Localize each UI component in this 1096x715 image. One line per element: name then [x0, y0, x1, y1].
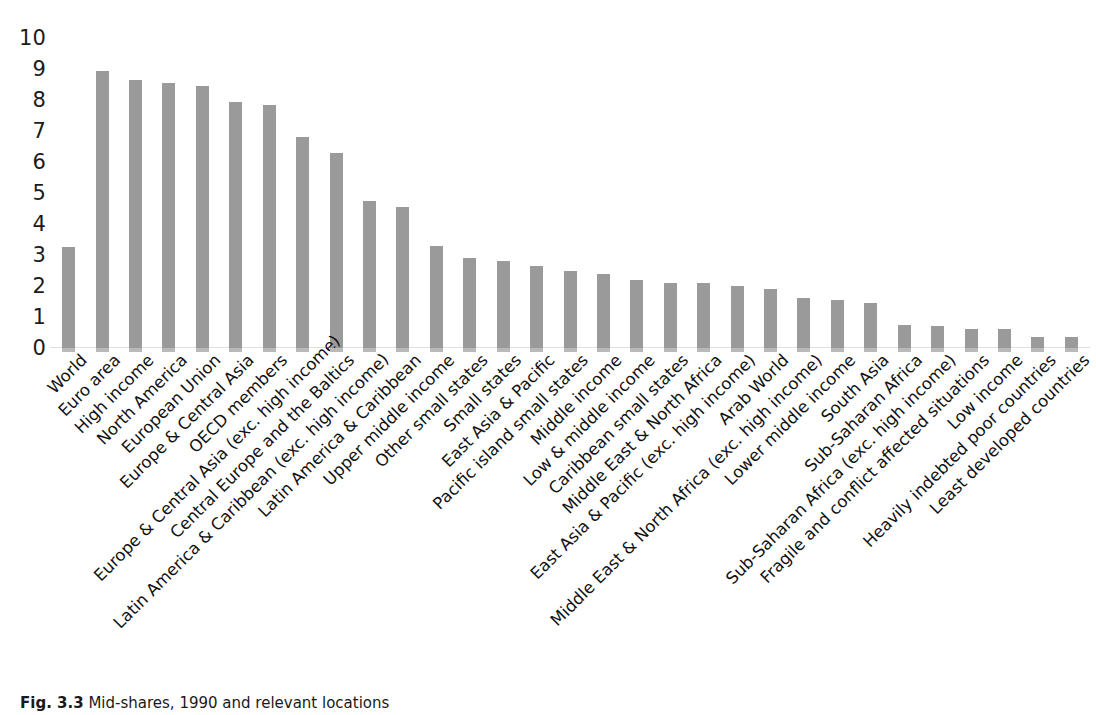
x-axis-tick-mark — [430, 348, 443, 352]
x-axis-tick-mark — [229, 348, 242, 352]
bar — [497, 261, 510, 348]
bar — [1065, 337, 1078, 348]
bar — [363, 201, 376, 348]
plot-area — [52, 38, 1088, 348]
bar — [396, 207, 409, 348]
bar — [764, 289, 777, 348]
y-axis-tick-label: 6 — [32, 152, 46, 173]
bar — [330, 153, 343, 348]
x-axis-tick-mark — [62, 348, 75, 352]
x-axis-category-labels: WorldEuro areaHigh incomeNorth AmericaEu… — [0, 352, 1096, 652]
x-axis-tick-mark — [296, 348, 309, 352]
x-axis-tick-mark — [263, 348, 276, 352]
x-axis-tick-mark — [396, 348, 409, 352]
x-axis-tick-mark — [564, 348, 577, 352]
x-axis-tick-mark — [530, 348, 543, 352]
y-axis: 109876543210 — [0, 38, 46, 348]
bar — [564, 271, 577, 349]
figure-caption: Fig. 3.3 Mid-shares, 1990 and relevant l… — [20, 694, 1080, 712]
y-axis-tick-label: 10 — [19, 28, 46, 49]
x-axis-tick-mark — [196, 348, 209, 352]
y-axis-tick-label: 5 — [32, 183, 46, 204]
bar — [430, 246, 443, 348]
caption-text: Mid-shares, 1990 and relevant locations — [88, 694, 389, 712]
bar — [864, 303, 877, 348]
y-axis-tick-label: 4 — [32, 214, 46, 235]
x-axis-tick-mark — [797, 348, 810, 352]
y-axis-tick-label: 9 — [32, 59, 46, 80]
bar — [530, 266, 543, 348]
bar — [931, 326, 944, 348]
bar — [129, 80, 142, 348]
y-axis-tick-label: 1 — [32, 307, 46, 328]
y-axis-tick-label: 8 — [32, 90, 46, 111]
x-axis-tick-mark — [731, 348, 744, 352]
x-axis-tick-mark — [898, 348, 911, 352]
x-axis-tick-mark — [497, 348, 510, 352]
x-axis-tick-mark — [931, 348, 944, 352]
y-axis-tick-label: 2 — [32, 276, 46, 297]
bar — [1031, 337, 1044, 348]
bar — [630, 280, 643, 348]
x-axis-tick-mark — [998, 348, 1011, 352]
bar — [697, 283, 710, 348]
bar — [296, 137, 309, 348]
x-axis-tick-mark — [463, 348, 476, 352]
x-axis-tick-mark — [96, 348, 109, 352]
x-axis-tick-mark — [664, 348, 677, 352]
x-axis-tick-mark — [630, 348, 643, 352]
bar — [731, 286, 744, 348]
x-axis-tick-mark — [1031, 348, 1044, 352]
x-axis-tick-mark — [864, 348, 877, 352]
x-axis-tick-mark — [831, 348, 844, 352]
x-axis-tick-mark — [363, 348, 376, 352]
bar — [797, 298, 810, 348]
bar — [263, 105, 276, 348]
x-axis-tick-mark — [697, 348, 710, 352]
bar — [62, 247, 75, 348]
y-axis-tick-label: 7 — [32, 121, 46, 142]
x-axis-tick-mark — [129, 348, 142, 352]
x-axis-tick-mark — [1065, 348, 1078, 352]
x-axis-tick-mark — [597, 348, 610, 352]
x-axis-tick-mark — [965, 348, 978, 352]
bar — [898, 325, 911, 348]
x-axis-tick-mark — [764, 348, 777, 352]
bar — [463, 258, 476, 348]
figure-number: Fig. 3.3 — [20, 694, 84, 712]
y-axis-tick-label: 3 — [32, 245, 46, 266]
x-axis-tick-mark — [162, 348, 175, 352]
bar — [196, 86, 209, 348]
bar — [965, 329, 978, 348]
bar — [664, 283, 677, 348]
x-axis-tick-mark — [330, 348, 343, 352]
bar — [229, 102, 242, 348]
bar — [998, 329, 1011, 348]
bar — [831, 300, 844, 348]
bar — [96, 71, 109, 348]
bar — [162, 83, 175, 348]
bar — [597, 274, 610, 348]
